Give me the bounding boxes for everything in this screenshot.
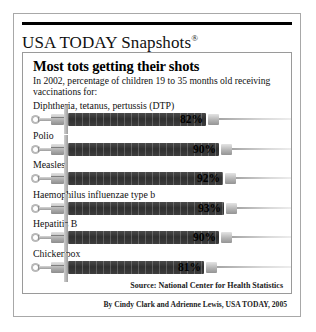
syringe-flange-icon	[51, 144, 64, 155]
chart-row: Hepatitis B90%	[23, 218, 292, 248]
syringe-flange-icon	[51, 203, 64, 214]
chart-panel: Most tots getting their shots In 2002, p…	[22, 52, 292, 294]
chart-row: Polio90%	[23, 130, 292, 160]
value-label: 93%	[198, 201, 221, 216]
syringe-hub-icon	[225, 173, 236, 184]
syringe-bar: 90%	[31, 230, 292, 245]
syringe-needle-icon	[232, 148, 292, 150]
chart-row: Haemophilus influenzae type b93%	[23, 189, 292, 219]
brand-title: USA TODAY Snapshots®	[22, 27, 294, 49]
chart-source: Source: National Center for Health Stati…	[130, 281, 283, 290]
chart-headline: Most tots getting their shots	[33, 58, 199, 75]
category-label: Diphtheria, tetanus, pertussis (DTP)	[33, 100, 174, 111]
brand-name: USA TODAY Snapshots	[22, 33, 191, 52]
chart-subtitle: In 2002, percentage of children 19 to 35…	[33, 75, 283, 97]
syringe-bar: 81%	[31, 260, 292, 275]
syringe-needle-icon	[217, 266, 292, 268]
syringe-needle-icon	[219, 118, 292, 120]
syringe-needle-icon	[237, 207, 292, 209]
chart-row: Diphtheria, tetanus, pertussis (DTP)82%	[23, 100, 292, 130]
byline: By Cindy Clark and Adrienne Lewis, USA T…	[0, 300, 301, 309]
category-label: Measles	[33, 159, 65, 170]
chart-row: Measles92%	[23, 159, 292, 189]
chart-rows: Diphtheria, tetanus, pertussis (DTP)82%P…	[23, 100, 292, 277]
syringe-bar: 93%	[31, 201, 292, 216]
value-label: 90%	[193, 142, 216, 157]
syringe-hub-icon	[226, 203, 237, 214]
syringe-needle-icon	[232, 236, 292, 238]
chart-row: Chickenpox81%	[23, 248, 292, 278]
syringe-flange-icon	[51, 262, 64, 273]
value-label: 81%	[178, 260, 201, 275]
value-label: 90%	[193, 230, 216, 245]
category-label: Chickenpox	[33, 248, 80, 259]
registered-trademark-icon: ®	[191, 33, 198, 43]
syringe-hub-icon	[206, 262, 217, 273]
syringe-bar: 90%	[31, 142, 292, 157]
category-label: Hepatitis B	[33, 218, 77, 229]
syringe-flange-icon	[51, 114, 64, 125]
syringe-flange-icon	[51, 173, 64, 184]
syringe-hub-icon	[221, 144, 232, 155]
syringe-bar: 82%	[31, 112, 292, 127]
syringe-bar: 92%	[31, 171, 292, 186]
value-label: 92%	[197, 171, 220, 186]
header-rule	[22, 22, 292, 25]
snapshot-infographic: USA TODAY Snapshots® Most tots getting t…	[0, 0, 316, 332]
category-label: Haemophilus influenzae type b	[33, 189, 155, 200]
value-label: 82%	[180, 112, 203, 127]
syringe-hub-icon	[208, 114, 219, 125]
syringe-hub-icon	[221, 232, 232, 243]
category-label: Polio	[33, 130, 54, 141]
syringe-flange-icon	[51, 232, 64, 243]
syringe-needle-icon	[236, 177, 292, 179]
